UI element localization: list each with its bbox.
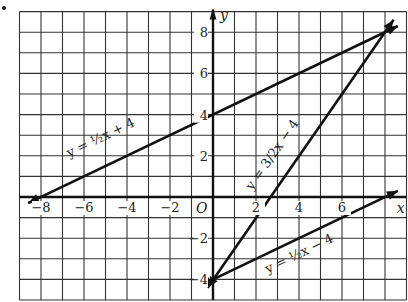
svg-text:−4: −4	[117, 200, 136, 215]
origin-label: O	[196, 200, 208, 216]
svg-text:4: 4	[200, 108, 208, 123]
svg-text:−2: −2	[189, 231, 208, 246]
x-axis-label: x	[397, 200, 405, 216]
svg-text:6: 6	[200, 66, 208, 81]
svg-text:−2: −2	[160, 200, 179, 215]
equation-label-2: y = 3/2x − 4	[242, 116, 302, 193]
svg-text:6: 6	[338, 200, 346, 215]
svg-text:2: 2	[252, 200, 260, 215]
coordinate-graph: −8−6−4−22468642−2−4 x y O y = ½x + 4 y =…	[0, 0, 408, 302]
svg-text:−8: −8	[31, 200, 50, 215]
y-axis-label: y	[219, 7, 229, 23]
svg-text:−6: −6	[74, 200, 93, 215]
svg-text:2: 2	[200, 149, 208, 164]
svg-text:8: 8	[200, 25, 208, 40]
equation-label-1: y = ½x + 4	[63, 115, 137, 161]
svg-text:−4: −4	[189, 272, 208, 287]
svg-text:4: 4	[295, 200, 303, 215]
